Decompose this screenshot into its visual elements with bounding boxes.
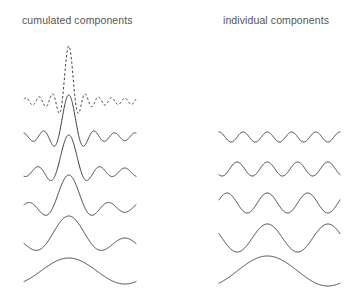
individual-component-1 (219, 256, 340, 286)
cumulated-sum-all-dashed (24, 46, 136, 113)
cumulated-sum-5 (24, 95, 136, 146)
individual-component-4 (219, 162, 340, 176)
fourier-synthesis-plot (0, 0, 349, 290)
figure-root: cumulated components individual componen… (0, 0, 349, 290)
individual-component-3 (219, 193, 340, 213)
individual-component-2 (219, 224, 340, 252)
cumulated-sum-3 (24, 175, 136, 215)
cumulated-sum-1 (24, 258, 136, 284)
individual-component-5 (219, 132, 340, 142)
cumulated-sum-2 (24, 216, 136, 250)
